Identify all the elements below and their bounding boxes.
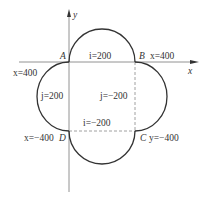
- y-axis-label: y: [72, 10, 78, 20]
- point-d-label: D: [58, 133, 66, 143]
- top-arc-i-label: i=200: [89, 51, 111, 61]
- x-axis-label: x: [187, 66, 193, 76]
- left-x-label: x=400: [13, 68, 38, 78]
- x-axis-arrow-icon: [190, 60, 199, 64]
- point-b-label: B: [139, 51, 145, 61]
- arc-bottom-cd: [69, 131, 135, 164]
- diagram-canvas: y x A B C D i=200 x=400 x=400 j=200 j=−2…: [0, 0, 205, 200]
- diagram-svg: y x A B C D i=200 x=400 x=400 j=200 j=−2…: [0, 0, 205, 200]
- y-axis-arrow-icon: [67, 9, 71, 17]
- right-arc-j-label: j=−200: [99, 91, 128, 101]
- bottom-arc-i-label: i=−200: [83, 118, 111, 128]
- arc-right-bc: [135, 62, 167, 131]
- left-arc-j-label: j=200: [40, 91, 63, 101]
- point-c-label: C: [140, 133, 147, 143]
- b-x-label: x=400: [150, 51, 175, 61]
- point-a-label: A: [59, 51, 66, 61]
- c-y-label: y=−400: [149, 133, 179, 143]
- d-x-label: x=−400: [24, 133, 54, 143]
